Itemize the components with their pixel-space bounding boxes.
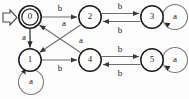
state-node-1[interactable]: 1: [19, 49, 41, 71]
state-label-0: 0: [28, 11, 33, 21]
self-loop-label-3: a: [173, 11, 177, 21]
edge-label-5-4: b: [118, 68, 123, 78]
state-label-5: 5: [150, 54, 155, 64]
state-node-3[interactable]: 3: [141, 6, 163, 28]
edge-label-2-3: b: [118, 1, 123, 11]
edge-label-3-2: b: [118, 25, 123, 35]
state-node-0[interactable]: 0: [19, 6, 41, 28]
automaton-canvas: 0 1 2 3 4 5 b a b a a: [0, 0, 189, 99]
edge-label-4-0: a: [79, 35, 83, 45]
state-label-4: 4: [88, 54, 93, 64]
state-label-1: 1: [28, 54, 33, 64]
edge-label-0-1: a: [22, 32, 26, 42]
state-label-2: 2: [88, 11, 93, 21]
edge-label-4-5: b: [118, 44, 123, 54]
state-node-2[interactable]: 2: [79, 6, 101, 28]
edge-label-2-1: a: [62, 18, 66, 28]
edge-label-1-4: b: [58, 63, 63, 73]
state-label-3: 3: [150, 11, 155, 21]
state-node-5[interactable]: 5: [141, 49, 163, 71]
state-node-4[interactable]: 4: [79, 49, 101, 71]
edge-label-0-2: b: [58, 3, 63, 13]
automaton-diagram: 0 1 2 3 4 5 b a b a a: [0, 0, 189, 99]
start-arrow-icon: [3, 10, 17, 25]
self-loop-label-1: a: [29, 76, 33, 86]
self-loop-label-5: a: [173, 54, 177, 64]
